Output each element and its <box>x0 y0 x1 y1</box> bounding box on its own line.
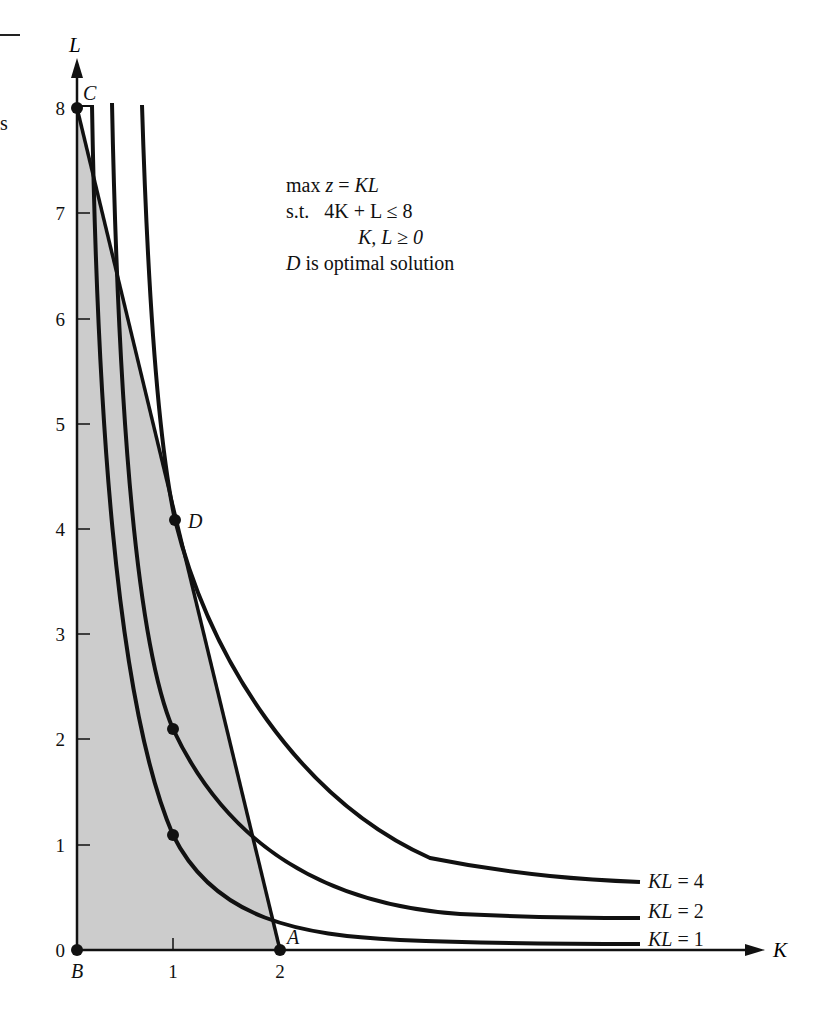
y-tick-label: 3 <box>56 624 66 645</box>
y-tick-label: 7 <box>56 203 66 224</box>
k-axis-label: K <box>772 938 788 962</box>
nonnegativity-text: K, L ≥ 0 <box>286 224 454 250</box>
point-label-a: A <box>285 926 300 948</box>
point-d <box>169 514 181 526</box>
model-annotation: max z = KL s.t. 4K + L ≤ 8 K, L ≥ 0 D is… <box>286 172 454 276</box>
y-tick-label: 6 <box>56 309 66 330</box>
constraint-text: s.t. 4K + L ≤ 8 <box>286 198 454 224</box>
y-tick-label: 5 <box>56 414 66 435</box>
y-tick-label: 2 <box>56 729 66 750</box>
x-tick-label: 2 <box>275 961 285 982</box>
curve-label-kl-4: KL = 4 <box>647 870 704 892</box>
y-tick-label: 4 <box>56 519 66 540</box>
k-axis-arrow-icon <box>745 944 765 956</box>
l-axis-label: L <box>68 33 81 57</box>
point-c <box>71 102 83 114</box>
y-tick-label: 1 <box>56 835 66 856</box>
point-a <box>274 944 286 956</box>
objective-line: max z = KL <box>286 172 454 198</box>
point-kl2-k1 <box>167 723 179 735</box>
x-tick-label: 1 <box>168 961 178 982</box>
point-label-c: C <box>83 82 97 104</box>
point-label-d: D <box>187 510 203 532</box>
y-tick-label: 8 <box>56 98 66 119</box>
chart: 0 1 2 3 4 5 6 7 8 1 2 L K C D A B KL = 4… <box>0 0 830 1018</box>
curve-label-kl-1: KL = 1 <box>647 928 704 950</box>
point-label-b: B <box>71 960 83 982</box>
optimal-note: D is optimal solution <box>286 250 454 276</box>
y-tick-label: 0 <box>56 940 66 961</box>
curve-label-kl-2: KL = 2 <box>647 900 704 922</box>
point-b <box>71 944 83 956</box>
point-kl1-k1 <box>167 829 179 841</box>
l-axis-arrow-icon <box>71 58 83 78</box>
